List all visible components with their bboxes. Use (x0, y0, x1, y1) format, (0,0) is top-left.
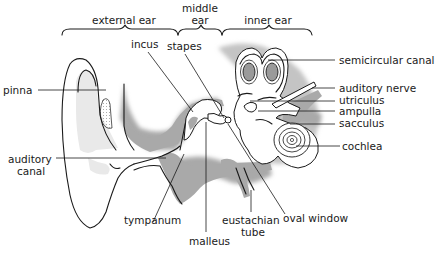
label-eustachian-tube-line1: eustachian (222, 214, 280, 226)
brace-inner-ear (222, 25, 312, 35)
label-incus: incus (131, 38, 158, 50)
ear-anatomy-diagram: external ear middle ear inner ear (0, 0, 443, 255)
label-stapes: stapes (167, 40, 202, 52)
brace-external-ear (62, 25, 178, 35)
label-malleus: malleus (189, 235, 230, 247)
region-label-middle-ear-line2: ear (191, 14, 209, 26)
label-cochlea: cochlea (342, 140, 382, 152)
cochlea-spiral (274, 123, 310, 157)
label-auditory-canal-line2: canal (17, 165, 45, 177)
pinna-shape (62, 59, 134, 228)
brace-middle-ear (178, 25, 222, 35)
region-label-middle-ear-line1: middle (182, 2, 218, 14)
label-semicircular-canal: semicircular canal (339, 54, 435, 66)
leader-incus (148, 52, 193, 112)
label-pinna: pinna (3, 84, 32, 96)
label-auditory-nerve: auditory nerve (339, 82, 416, 94)
region-label-inner-ear: inner ear (244, 14, 292, 26)
label-oval-window: oval window (283, 212, 349, 224)
label-sacculus: sacculus (339, 117, 384, 129)
label-tympanum: tympanum (124, 214, 181, 226)
region-label-external-ear: external ear (92, 14, 156, 26)
region-braces (62, 25, 312, 35)
label-ampulla: ampulla (339, 105, 381, 117)
label-auditory-canal-line1: auditory (8, 153, 52, 165)
label-eustachian-tube-line2: tube (241, 226, 265, 238)
